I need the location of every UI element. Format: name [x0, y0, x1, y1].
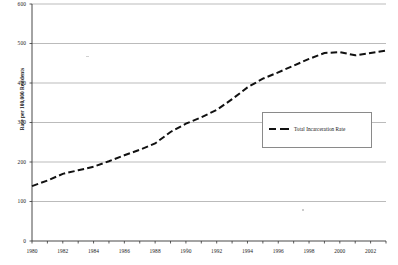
legend: Total Incarceration Rate: [262, 112, 372, 148]
legend-item-label: Total Incarceration Rate: [294, 126, 345, 132]
scan-artifact-speck: [186, 248, 188, 249]
chart-container: Rate per 100,000 Residents 0100200300400…: [0, 0, 398, 265]
scan-artifact-speck: [302, 209, 304, 211]
scan-artifact-speck: [86, 56, 89, 57]
gridlines: [32, 4, 386, 202]
legend-item-total-incarceration-rate: Total Incarceration Rate: [269, 126, 345, 132]
legend-dashed-line-icon: [269, 126, 291, 132]
